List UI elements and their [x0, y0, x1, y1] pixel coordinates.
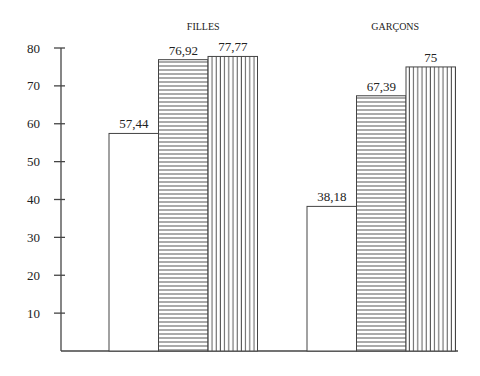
data-label: 75 — [424, 50, 437, 65]
data-label: 57,44 — [119, 116, 149, 131]
bar-blank — [307, 206, 357, 351]
y-tick-label: 40 — [27, 192, 40, 207]
bar-horizontal-hatch — [159, 60, 209, 351]
y-tick-label: 20 — [27, 268, 40, 283]
data-label: 38,18 — [317, 189, 346, 204]
group-label: FILLES — [187, 21, 220, 32]
bars — [109, 56, 456, 351]
bar-blank — [109, 133, 159, 351]
group-label: GARÇONS — [371, 21, 419, 32]
y-tick-label: 30 — [27, 230, 40, 245]
data-label: 67,39 — [367, 79, 396, 94]
bar-vertical-hatch — [208, 56, 258, 351]
data-label: 77,77 — [218, 39, 248, 54]
bar-chart: 1020304050607080 57,4476,9277,7738,1867,… — [0, 0, 480, 376]
bar-horizontal-hatch — [357, 96, 407, 351]
y-ticks: 1020304050607080 — [27, 41, 65, 321]
y-tick-label: 10 — [27, 306, 40, 321]
y-tick-label: 50 — [27, 154, 40, 169]
bar-vertical-hatch — [406, 67, 456, 351]
data-label: 76,92 — [169, 43, 198, 58]
y-tick-label: 60 — [27, 116, 40, 131]
y-tick-label: 70 — [27, 78, 40, 93]
y-tick-label: 80 — [27, 41, 40, 56]
group-labels: FILLESGARÇONS — [187, 21, 419, 32]
